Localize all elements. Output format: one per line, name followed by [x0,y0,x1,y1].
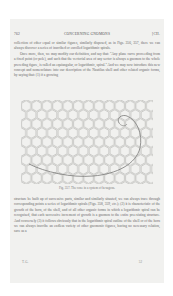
section-number: [CH. [152,32,160,36]
figure-hexagon-spiral [21,100,153,184]
figure-caption: Fig. 357. The cone in a system of hexago… [10,186,164,190]
paragraph: Once more, then, we may modify our defin… [14,52,160,79]
catchword: 52 [139,260,142,264]
book-page: 762 CONCERNING GNOMONS [CH. collection o… [10,19,164,283]
body-text-bottom: structure be built up of successive part… [14,197,160,235]
paragraph: structure be built up of successive part… [14,197,160,235]
body-text-top: collection of other equal or similar fig… [14,41,160,79]
signature-mark: T. G. [22,260,28,264]
paragraph: collection of other equal or similar fig… [14,41,160,52]
running-title: CONCERNING GNOMONS [13,32,161,36]
running-header: 762 CONCERNING GNOMONS [CH. [13,32,161,38]
hexagon-tiling [21,100,153,184]
hexagon-grid-illustration [21,100,153,184]
